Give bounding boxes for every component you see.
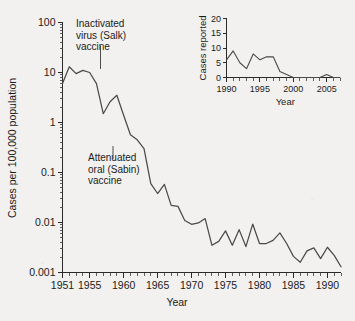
- inset-chart: 051015201990199520002005YearCases report…: [197, 14, 340, 107]
- annotation-salk-vaccine: Inactivatedvirus (Salk)vaccine: [76, 18, 126, 69]
- inset-y-axis-title: Cases reported: [197, 16, 208, 81]
- x-axis-title: Year: [166, 296, 188, 308]
- annotation-line: Attenuated: [88, 152, 136, 163]
- annotation-line: virus (Salk): [76, 30, 126, 41]
- inset-x-axis-title: Year: [276, 96, 295, 107]
- x-tick-label: 1970: [180, 279, 204, 291]
- inset-y-tick-label: 5: [216, 58, 221, 68]
- x-tick-label: 1985: [282, 279, 306, 291]
- inset-y-tick-label: 15: [211, 28, 221, 38]
- inset-y-tick-label: 10: [211, 43, 221, 53]
- x-tick-label: 1975: [214, 279, 238, 291]
- inset-x-tick-label: 1995: [250, 84, 270, 94]
- x-tick-label: 1960: [112, 279, 136, 291]
- annotation-sabin-vaccine: Attenuatedoral (Sabin)vaccine: [88, 146, 140, 186]
- y-tick-label: 0.001: [29, 266, 55, 278]
- y-tick-label: 0.01: [35, 216, 56, 228]
- x-tick-label: 1951: [51, 279, 75, 291]
- x-tick-label: 1980: [248, 279, 272, 291]
- annotation-line: oral (Sabin): [88, 164, 140, 175]
- inset-x-tick-label: 1990: [216, 84, 236, 94]
- annotation-line: vaccine: [88, 175, 122, 186]
- y-tick-label: 10: [44, 66, 56, 78]
- inset-y-tick-label: 0: [216, 73, 221, 83]
- x-tick-label: 1955: [78, 279, 102, 291]
- annotation-line: vaccine: [76, 41, 110, 52]
- y-tick-label: 0.1: [41, 166, 56, 178]
- inset-y-tick-label: 20: [211, 14, 221, 24]
- main-chart: 0.0010.010.11101001951195519601965197019…: [6, 16, 341, 307]
- y-tick-label: 1: [50, 116, 56, 128]
- inset-x-tick-label: 2005: [317, 84, 337, 94]
- inset-x-tick-label: 2000: [283, 84, 303, 94]
- x-tick-label: 1990: [316, 279, 340, 291]
- inset-axis-lines: [227, 19, 341, 78]
- x-tick-label: 1965: [146, 279, 170, 291]
- y-tick-label: 100: [38, 16, 56, 28]
- polio-incidence-figure: 0.0010.010.11101001951195519601965197019…: [0, 0, 355, 321]
- y-axis-title: Cases per 100,000 population: [6, 78, 18, 218]
- annotation-line: Inactivated: [76, 18, 124, 29]
- inset-data-line: [227, 51, 341, 78]
- chart-canvas: 0.0010.010.11101001951195519601965197019…: [0, 0, 355, 321]
